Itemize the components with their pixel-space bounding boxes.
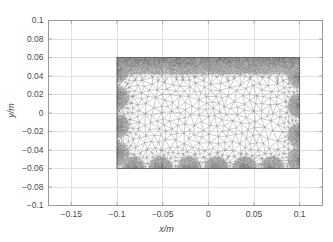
x-tick-label: −0.05: [143, 210, 183, 219]
y-tick-label: −0.04: [6, 146, 44, 155]
x-tick-label: 0.05: [234, 210, 274, 219]
x-tick-label: −0.15: [51, 210, 91, 219]
x-tick-label: 0: [188, 210, 228, 219]
y-tick-label: 0.08: [6, 35, 44, 44]
figure-canvas: 0.10.080.060.040.020−0.02−0.04−0.06−0.08…: [0, 0, 333, 242]
mesh-plot: [0, 0, 333, 242]
y-tick-label: −0.1: [6, 201, 44, 210]
y-axis-title: y/m: [7, 91, 16, 131]
y-tick-label: 0.1: [6, 16, 44, 25]
x-tick-label: 0.1: [280, 210, 320, 219]
y-tick-label: −0.08: [6, 183, 44, 192]
y-tick-label: 0.06: [6, 53, 44, 62]
y-tick-label: −0.06: [6, 164, 44, 173]
x-axis-title: x/m: [0, 225, 333, 234]
x-tick-label: −0.1: [97, 210, 137, 219]
y-tick-label: 0.04: [6, 72, 44, 81]
